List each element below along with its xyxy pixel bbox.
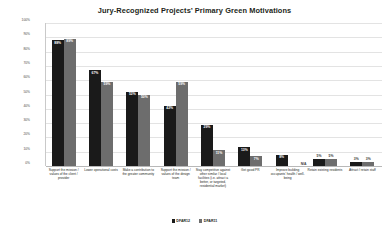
bar-group: 52%50% [120, 23, 157, 166]
x-axis-category-label: Improve building occupants’ health / wel… [269, 168, 306, 188]
bar: 89% [64, 39, 76, 166]
bar-value-label: 5% [317, 155, 322, 158]
bar-group: 29%11% [194, 23, 231, 166]
y-axis-ticks: 100%90%80%70%60%50%40%30%20%10%0% [10, 20, 30, 170]
bar: 88% [52, 40, 64, 166]
legend-swatch-icon [199, 219, 202, 222]
bar-group: 13%7% [232, 23, 269, 166]
bar-groups: 88%89%67%59%52%50%42%59%29%11%13%7%8%N/A… [45, 23, 381, 166]
bar-fill [164, 106, 176, 166]
bar: 29% [201, 125, 213, 166]
bar-value-label: 13% [241, 149, 248, 152]
bar-fill [64, 39, 76, 166]
bar: 5% [313, 159, 325, 166]
x-axis-category-label: Retain existing residents [306, 168, 343, 188]
x-axis-category-label: Attract / retain staff [344, 168, 381, 188]
gridline [46, 166, 382, 167]
legend-label: DFAR11 [204, 219, 218, 223]
y-axis-tick-label: 100% [8, 18, 30, 22]
bar-group: 88%89% [45, 23, 82, 166]
bar-fill [101, 82, 113, 166]
bar-value-label: 67% [92, 72, 99, 75]
bar: 7% [250, 156, 262, 166]
x-axis-category-label: Get good PR [232, 168, 269, 188]
bar-fill [201, 125, 213, 166]
legend-label: DFAR12 [176, 219, 190, 223]
bar-value-label: 3% [354, 158, 359, 161]
bar-value-label: 5% [329, 155, 334, 158]
bar-value-label: 8% [279, 156, 284, 159]
bar-group: 67%59% [82, 23, 119, 166]
x-axis-category-label: Support the mission / values of the desi… [157, 168, 194, 188]
y-axis-tick-label: 30% [8, 118, 30, 122]
y-axis-tick-label: 70% [8, 61, 30, 65]
y-axis-tick-label: 50% [8, 90, 30, 94]
bar-fill [89, 70, 101, 166]
bar-fill [176, 82, 188, 166]
bar-value-label: 52% [129, 93, 136, 96]
y-axis-tick-label: 90% [8, 32, 30, 36]
bar: 3% [350, 162, 362, 166]
legend-item[interactable]: DFAR12 [172, 219, 190, 223]
legend-item[interactable]: DFAR11 [199, 219, 217, 223]
bar-group: 8%N/A [269, 23, 306, 166]
bar: 50% [138, 95, 150, 167]
chart-title: Jury-Recognized Projects’ Primary Green … [0, 6, 389, 15]
bar-value-label: 59% [178, 83, 185, 86]
chart-legend: DFAR12DFAR11 [0, 219, 389, 223]
bar-value-label: 42% [166, 107, 173, 110]
y-axis-tick-label: 10% [8, 147, 30, 151]
bar: 42% [164, 106, 176, 166]
bar-value-label: 88% [54, 42, 61, 45]
bar: 13% [238, 147, 250, 166]
bar-value-label: 50% [141, 96, 148, 99]
y-axis-tick-label: 40% [8, 104, 30, 108]
bar-fill [126, 92, 138, 166]
bar-value-label: 7% [254, 158, 259, 161]
x-axis-category-label: Lower operational costs [82, 168, 119, 188]
bar: 59% [101, 82, 113, 166]
legend-swatch-icon [172, 219, 175, 222]
chart-container: Jury-Recognized Projects’ Primary Green … [0, 0, 389, 236]
bar: 5% [325, 159, 337, 166]
bar-value-label: 89% [66, 40, 73, 43]
bar-fill [52, 40, 64, 166]
bar-value-label: 29% [204, 126, 211, 129]
bar-group: 5%5% [306, 23, 343, 166]
x-axis-category-label: Support the mission / values of the clie… [45, 168, 82, 188]
bar-value-label: 3% [366, 158, 371, 161]
bar: 67% [89, 70, 101, 166]
bar-fill [362, 162, 374, 166]
bar-group: 3%3% [344, 23, 381, 166]
y-axis-tick-label: 80% [8, 47, 30, 51]
bar-fill [138, 95, 150, 167]
bar-fill [325, 159, 337, 166]
bar: 8% [276, 155, 288, 166]
bar-fill [350, 162, 362, 166]
bar-value-label: 59% [104, 83, 111, 86]
bar: 59% [176, 82, 188, 166]
y-axis-tick-label: 0% [8, 161, 30, 165]
bar: 3% [362, 162, 374, 166]
bar-group: 42%59% [157, 23, 194, 166]
bar: 11% [213, 150, 225, 166]
x-axis-labels: Support the mission / values of the clie… [45, 168, 381, 188]
y-axis-tick-label: 60% [8, 75, 30, 79]
y-axis-tick-label: 20% [8, 132, 30, 136]
bar-value-label: 11% [216, 152, 223, 155]
bar-fill [313, 159, 325, 166]
x-axis-category-label: Make a contribution to the greater commu… [120, 168, 157, 188]
x-axis-category-label: Stay competitive against other similar /… [194, 168, 231, 188]
bar: 52% [126, 92, 138, 166]
